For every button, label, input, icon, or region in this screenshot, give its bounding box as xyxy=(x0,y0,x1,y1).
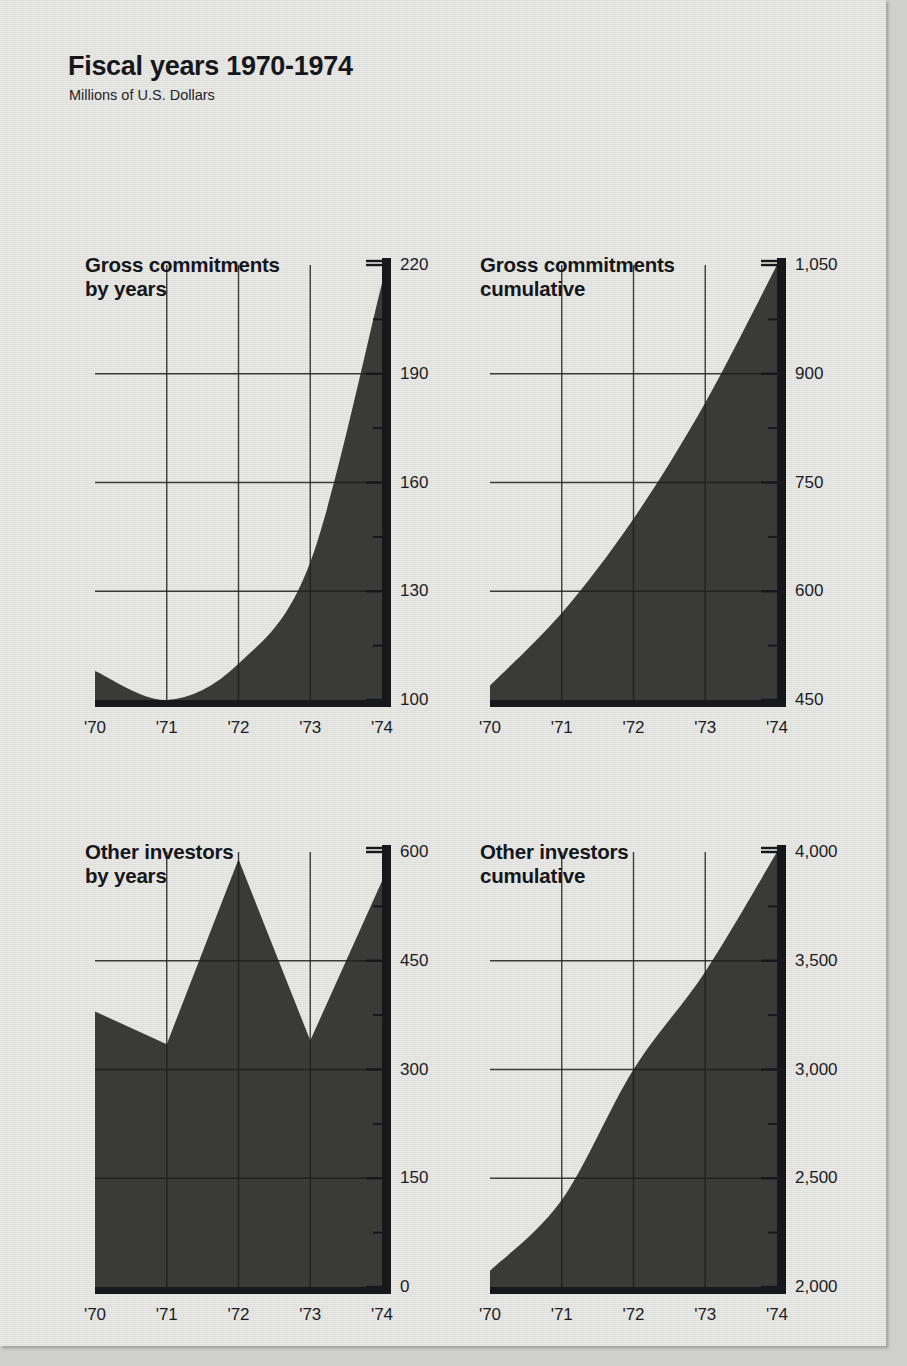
y-tick-label: 150 xyxy=(400,1168,428,1188)
y-tick-label: 2,500 xyxy=(795,1168,838,1188)
x-tick-label: '72 xyxy=(227,718,249,738)
y-axis-spine xyxy=(777,845,786,1287)
x-tick-label: '71 xyxy=(551,1305,573,1325)
plot-other-investors-cumulative xyxy=(480,842,789,1299)
x-tick-label: '74 xyxy=(766,1305,788,1325)
plot-area-gross-commitments-by-years xyxy=(85,255,394,712)
x-tick-label: '70 xyxy=(479,1305,501,1325)
y-tick-label: 450 xyxy=(400,951,428,971)
y-tick-label: 2,000 xyxy=(795,1277,838,1297)
x-tick-label: '74 xyxy=(766,718,788,738)
x-axis-spine xyxy=(95,700,391,707)
y-tick-label: 3,000 xyxy=(795,1060,838,1080)
y-tick-label: 600 xyxy=(400,842,428,862)
y-axis-spine xyxy=(382,258,391,700)
plot-area-other-investors-by-years xyxy=(85,842,394,1299)
chart-gross-commitments-by-years: Gross commitments by years10013016019022… xyxy=(85,255,492,760)
chart-title-other-investors-cumulative: Other investors cumulative xyxy=(480,840,629,888)
y-axis-spine xyxy=(777,258,786,700)
x-tick-label: '74 xyxy=(371,1305,393,1325)
y-tick-label: 220 xyxy=(400,255,428,275)
y-tick-label: 600 xyxy=(795,581,823,601)
page-subtitle: Millions of U.S. Dollars xyxy=(69,87,353,103)
chart-title-other-investors-by-years: Other investors by years xyxy=(85,840,234,888)
x-tick-label: '71 xyxy=(156,718,178,738)
x-axis-spine xyxy=(490,1287,786,1294)
x-tick-label: '73 xyxy=(694,718,716,738)
y-axis-spine xyxy=(382,845,391,1287)
page-header: Fiscal years 1970-1974 Millions of U.S. … xyxy=(68,52,353,103)
y-tick-label: 0 xyxy=(400,1277,409,1297)
y-tick-label: 190 xyxy=(400,364,428,384)
y-tick-label: 100 xyxy=(400,690,428,710)
y-tick-label: 450 xyxy=(795,690,823,710)
x-tick-label: '70 xyxy=(84,718,106,738)
x-axis-spine xyxy=(95,1287,391,1294)
x-tick-label: '71 xyxy=(551,718,573,738)
x-tick-label: '70 xyxy=(84,1305,106,1325)
y-tick-label: 160 xyxy=(400,473,428,493)
x-tick-label: '73 xyxy=(299,1305,321,1325)
plot-area-gross-commitments-cumulative xyxy=(480,255,789,712)
chart-gross-commitments-cumulative: Gross commitments cumulative450600750900… xyxy=(480,255,887,760)
x-axis-spine xyxy=(490,700,786,707)
x-tick-label: '72 xyxy=(622,718,644,738)
x-tick-label: '72 xyxy=(227,1305,249,1325)
x-tick-label: '73 xyxy=(694,1305,716,1325)
plot-other-investors-by-years xyxy=(85,842,394,1299)
x-tick-label: '74 xyxy=(371,718,393,738)
y-tick-label: 900 xyxy=(795,364,823,384)
chart-title-gross-commitments-cumulative: Gross commitments cumulative xyxy=(480,253,675,301)
chart-title-gross-commitments-by-years: Gross commitments by years xyxy=(85,253,280,301)
x-tick-label: '72 xyxy=(622,1305,644,1325)
plot-area-other-investors-cumulative xyxy=(480,842,789,1299)
x-tick-label: '73 xyxy=(299,718,321,738)
plot-gross-commitments-cumulative xyxy=(480,255,789,712)
x-tick-label: '71 xyxy=(156,1305,178,1325)
y-tick-label: 4,000 xyxy=(795,842,838,862)
y-tick-label: 130 xyxy=(400,581,428,601)
y-tick-label: 1,050 xyxy=(795,255,838,275)
y-tick-label: 300 xyxy=(400,1060,428,1080)
poster-page: Fiscal years 1970-1974 Millions of U.S. … xyxy=(0,0,886,1346)
chart-other-investors-by-years: Other investors by years0150300450600'70… xyxy=(85,842,492,1347)
x-tick-label: '70 xyxy=(479,718,501,738)
chart-other-investors-cumulative: Other investors cumulative2,0002,5003,00… xyxy=(480,842,887,1347)
plot-gross-commitments-by-years xyxy=(85,255,394,712)
page-title: Fiscal years 1970-1974 xyxy=(68,52,353,80)
y-tick-label: 750 xyxy=(795,473,823,493)
y-tick-label: 3,500 xyxy=(795,951,838,971)
